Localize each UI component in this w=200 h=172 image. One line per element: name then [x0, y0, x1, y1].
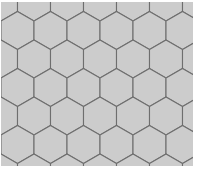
bottom-margin-mask [0, 166, 200, 172]
hexagon-cells-group [0, 0, 200, 172]
pattern-canvas: Hexagonal Tiling Pattern Honeycomb tesse… [0, 0, 200, 172]
top-margin-mask [0, 0, 200, 2]
hexagon-tiling-figure [0, 0, 200, 172]
right-margin-mask [193, 0, 200, 172]
left-margin-mask [0, 0, 1, 172]
